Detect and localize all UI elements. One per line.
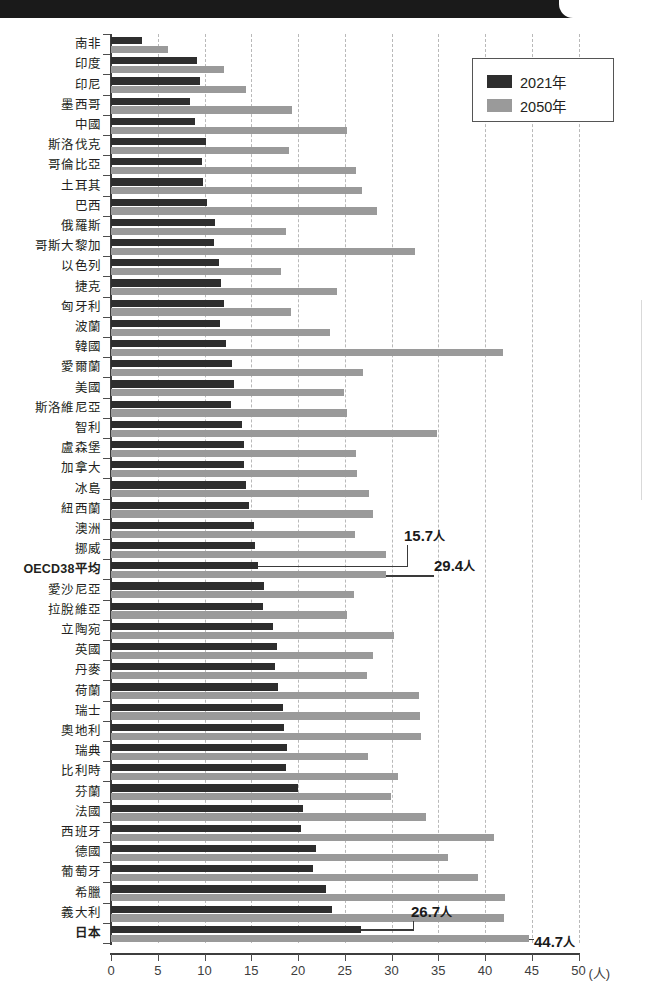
bar-2021-4 <box>111 118 195 125</box>
bar-2050-14 <box>111 329 330 336</box>
bar-2021-17 <box>111 380 234 387</box>
value-tick-label-20: 20 <box>291 963 305 978</box>
bar-2050-6 <box>111 167 356 174</box>
bar-2021-37 <box>111 784 298 791</box>
bar-2021-6 <box>111 158 202 165</box>
bar-2050-9 <box>111 228 286 235</box>
value-tick-30 <box>392 954 393 961</box>
bar-2021-8 <box>111 199 207 206</box>
value-tick-50 <box>579 954 580 961</box>
bar-2021-0 <box>111 37 142 44</box>
category-tick-11 <box>103 256 110 257</box>
bar-2050-22 <box>111 490 369 497</box>
category-label-11: 以色列 <box>61 259 101 273</box>
value-tick-label-40: 40 <box>478 963 492 978</box>
category-tick-41 <box>103 862 110 863</box>
callout-oecd-2050-unit: 人 <box>463 560 475 574</box>
bar-2021-14 <box>111 320 220 327</box>
category-tick-10 <box>103 236 110 237</box>
bar-2021-1 <box>111 57 197 64</box>
value-tick-15 <box>251 954 252 961</box>
category-label-2: 印尼 <box>75 78 101 92</box>
category-label-26: OECD38平均 <box>23 562 101 576</box>
category-label-32: 荷蘭 <box>75 684 101 698</box>
bar-2021-15 <box>111 340 226 347</box>
bar-2050-10 <box>111 248 415 255</box>
category-tick-23 <box>103 499 110 500</box>
bar-2050-30 <box>111 652 373 659</box>
category-tick-9 <box>103 216 110 217</box>
callout-japan-2050-value: 44.7 <box>534 933 563 950</box>
bar-2050-19 <box>111 430 437 437</box>
gridline-50 <box>579 34 580 943</box>
bar-2050-17 <box>111 389 344 396</box>
callout-japan-2021-leader-h <box>361 929 414 930</box>
header-band-corner <box>559 0 645 18</box>
bar-2021-22 <box>111 481 246 488</box>
category-label-19: 智利 <box>75 421 101 435</box>
callout-japan-2021: 26.7人 <box>411 903 452 920</box>
category-tick-end <box>103 943 110 944</box>
category-label-5: 斯洛伐克 <box>48 138 101 152</box>
callout-oecd-2021-unit: 人 <box>433 530 445 544</box>
callout-oecd-2021: 15.7人 <box>404 527 445 544</box>
bar-2050-8 <box>111 207 377 214</box>
gridline-45 <box>532 34 533 943</box>
category-label-35: 瑞典 <box>75 744 101 758</box>
bar-2021-24 <box>111 522 254 529</box>
callout-oecd-2050-leader-h <box>386 575 434 576</box>
category-tick-40 <box>103 842 110 843</box>
category-tick-17 <box>103 377 110 378</box>
bar-2050-41 <box>111 874 478 881</box>
category-label-10: 哥斯大黎加 <box>35 239 101 253</box>
bar-2021-7 <box>111 178 203 185</box>
category-label-1: 印度 <box>75 57 101 71</box>
category-tick-27 <box>103 579 110 580</box>
category-tick-16 <box>103 357 110 358</box>
category-tick-13 <box>103 297 110 298</box>
category-label-25: 挪威 <box>75 542 101 556</box>
category-label-31: 丹麥 <box>75 663 101 677</box>
value-tick-label-35: 35 <box>431 963 445 978</box>
category-tick-0 <box>103 34 110 35</box>
legend-label-2021: 2021年 <box>520 71 566 92</box>
category-label-40: 德國 <box>75 845 101 859</box>
bar-2021-34 <box>111 724 284 731</box>
category-label-20: 盧森堡 <box>61 441 101 455</box>
bar-2021-9 <box>111 219 215 226</box>
category-label-22: 冰島 <box>75 482 101 496</box>
category-label-21: 加拿大 <box>61 461 101 475</box>
legend-swatch-2050 <box>487 99 512 112</box>
bar-2021-26 <box>111 562 258 569</box>
callout-oecd-2050: 29.4人 <box>434 557 475 574</box>
bar-2050-33 <box>111 712 420 719</box>
bar-2050-15 <box>111 349 503 356</box>
bar-2050-26 <box>111 571 386 578</box>
category-tick-38 <box>103 802 110 803</box>
callout-japan-2021-leader-v <box>413 921 414 931</box>
bar-2050-5 <box>111 147 289 154</box>
bar-2021-40 <box>111 845 316 852</box>
bar-2050-36 <box>111 773 398 780</box>
bar-2021-32 <box>111 683 278 690</box>
bar-2050-13 <box>111 308 291 315</box>
category-label-0: 南非 <box>75 37 101 51</box>
bar-2050-11 <box>111 268 281 275</box>
bar-2021-11 <box>111 259 219 266</box>
category-label-30: 英國 <box>75 643 101 657</box>
legend-label-2050: 2050年 <box>520 95 566 116</box>
callout-japan-2050: 44.7人 <box>534 933 575 950</box>
category-label-38: 法國 <box>75 805 101 819</box>
bar-2050-42 <box>111 894 505 901</box>
category-label-37: 芬蘭 <box>75 785 101 799</box>
category-tick-8 <box>103 196 110 197</box>
value-axis-unit-label: (人) <box>589 963 611 982</box>
bar-2021-12 <box>111 279 221 286</box>
category-tick-30 <box>103 640 110 641</box>
category-label-33: 瑞士 <box>75 704 101 718</box>
bar-2021-23 <box>111 502 249 509</box>
value-tick-35 <box>438 954 439 961</box>
legend-item-2050: 2050年 <box>487 95 566 116</box>
category-tick-21 <box>103 458 110 459</box>
bar-2021-44 <box>111 926 361 933</box>
